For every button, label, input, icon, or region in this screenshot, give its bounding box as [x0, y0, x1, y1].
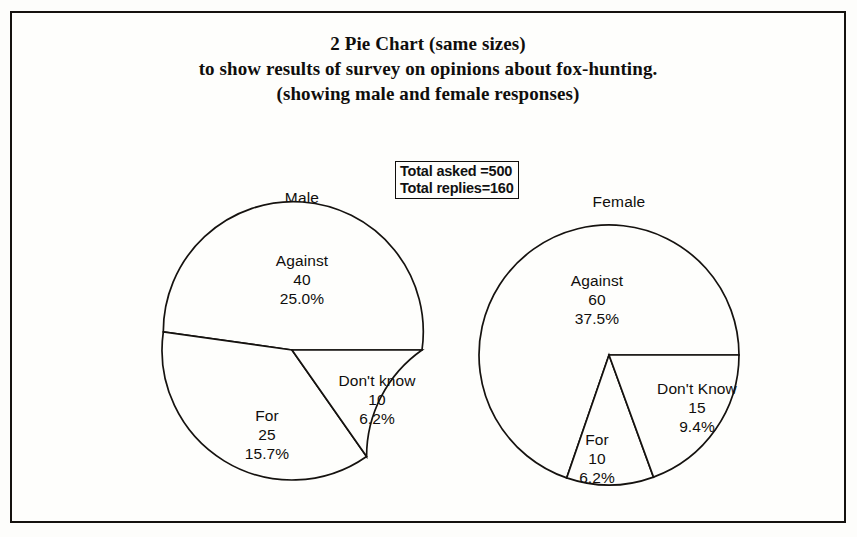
female-against-percent: 37.5% [512, 309, 682, 328]
chart-figure-frame: 2 Pie Chart (same sizes) to show results… [10, 11, 846, 523]
female-dontknow-category: Don't Know [632, 379, 762, 398]
female-dontknow-count: 15 [632, 398, 762, 417]
female-dontknow-percent: 9.4% [632, 417, 762, 436]
female-label-dontknow: Don't Know 15 9.4% [632, 379, 762, 436]
female-for-count: 10 [552, 449, 642, 468]
female-pie-svg [12, 13, 848, 525]
female-against-category: Against [512, 271, 682, 290]
female-for-percent: 6.2% [552, 468, 642, 487]
female-for-category: For [552, 430, 642, 449]
female-label-for: For 10 6.2% [552, 430, 642, 487]
female-label-against: Against 60 37.5% [512, 271, 682, 328]
female-against-count: 60 [512, 290, 682, 309]
